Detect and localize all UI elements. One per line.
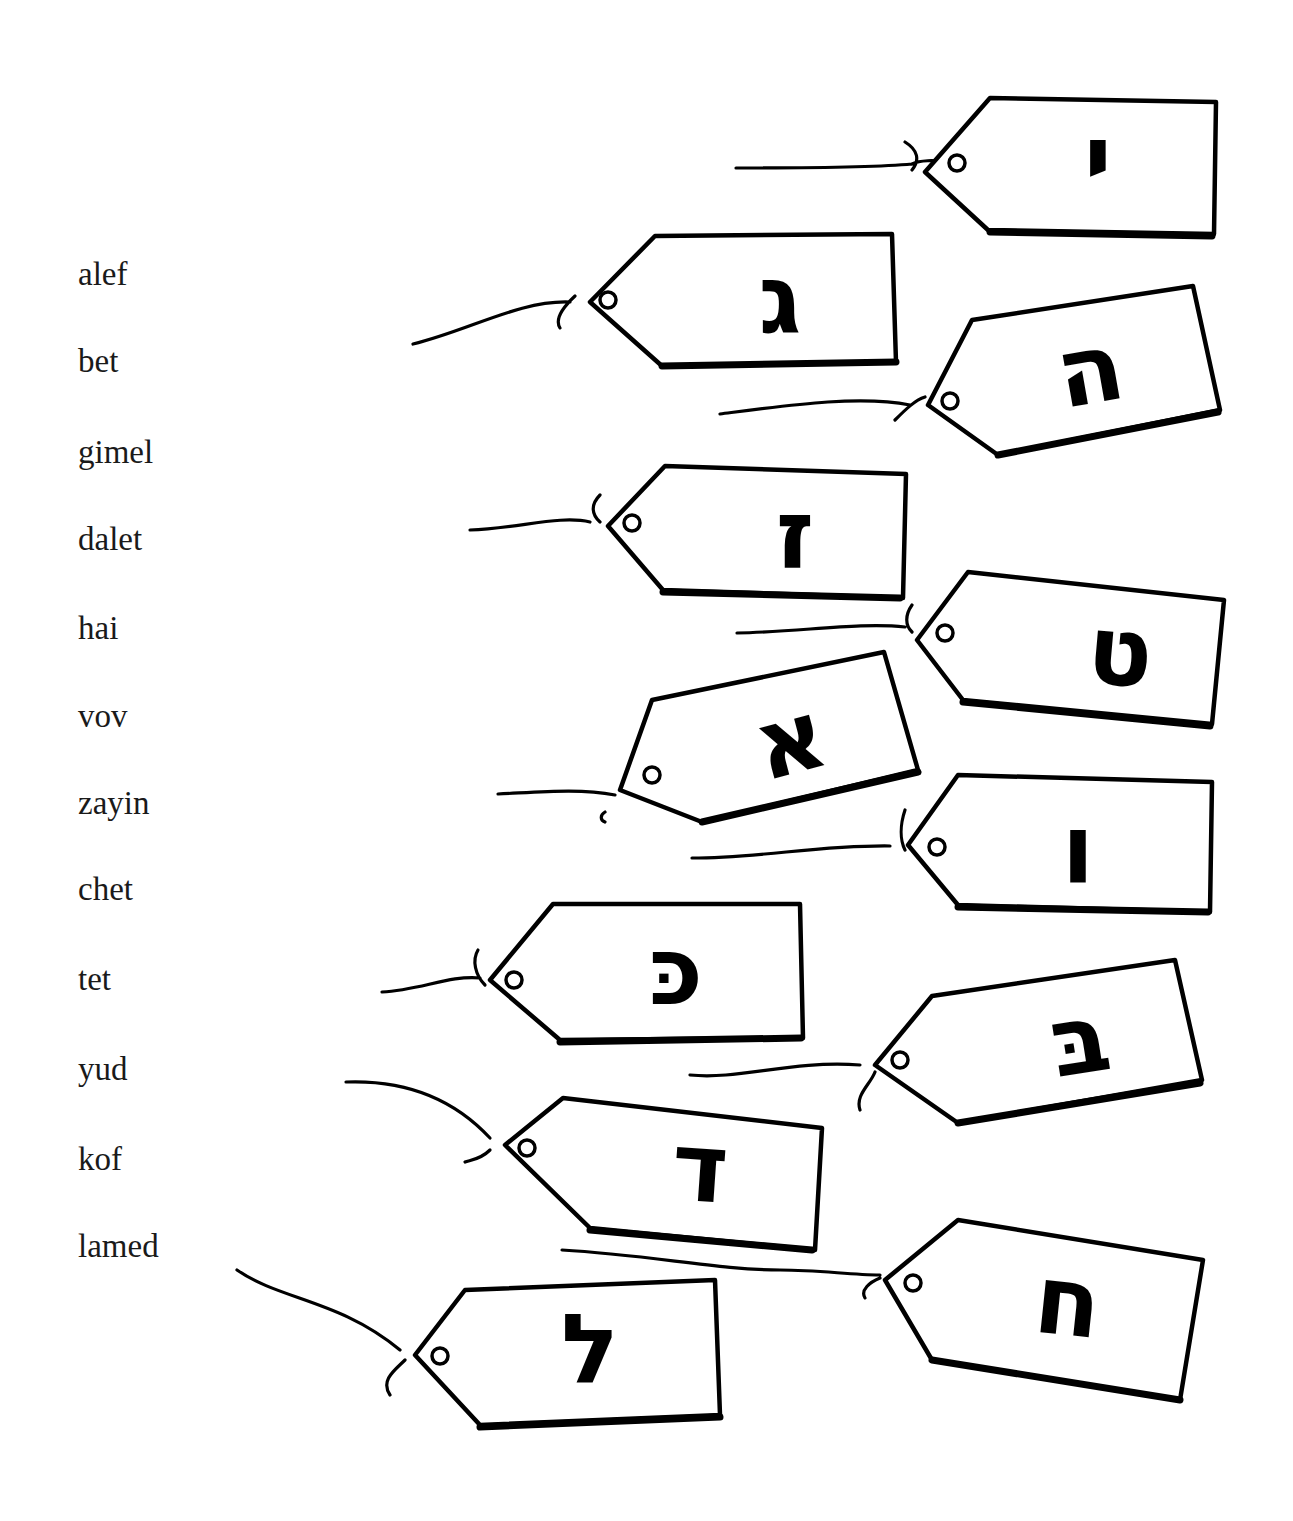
tag-lamed[interactable]: ל [237,1270,720,1427]
tag-letter: ד [668,1110,732,1226]
string [736,142,945,170]
tag-zayin[interactable]: ז [470,466,906,598]
tag-letter: י [1084,104,1112,216]
tag-letter: ג [759,244,802,356]
tag-letter: ל [561,1294,619,1406]
tag-yud[interactable]: י [736,98,1216,236]
tag-letter: כּ [649,916,703,1028]
tag-letter: ח [1029,1243,1106,1361]
tag-kof[interactable]: כּ [382,904,803,1042]
tag-dalet[interactable]: ד [346,1082,822,1250]
tag-letter: ו [1062,794,1095,906]
tags-canvas: י ג ה ז ט א [0,0,1293,1521]
tag-letter: ט [1083,593,1158,710]
tag-letter: ז [776,479,814,591]
tag-alef[interactable]: א [498,652,918,822]
tag-gimel[interactable]: ג [413,234,896,366]
